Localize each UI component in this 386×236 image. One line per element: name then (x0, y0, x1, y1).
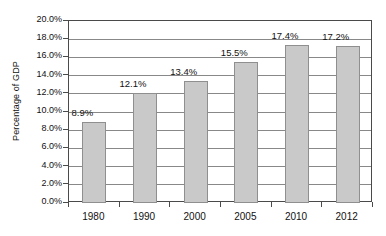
y-axis-tick-label: 18.0% (2, 33, 62, 42)
x-axis-tick-mark (321, 202, 322, 207)
bar-value-label: 17.2% (314, 32, 358, 42)
bar (133, 93, 157, 203)
y-axis-tick-mark (63, 38, 68, 39)
x-axis-tick-label: 1980 (68, 211, 118, 222)
y-axis-tick-label: 10.0% (2, 106, 62, 115)
gridline (69, 75, 371, 76)
y-axis-tick-label: 20.0% (2, 15, 62, 24)
bar (336, 46, 360, 203)
bar-value-label: 8.9% (60, 108, 104, 118)
y-axis-tick-label: 4.0% (2, 161, 62, 170)
y-axis-tick-mark (63, 92, 68, 93)
x-axis-tick-label: 1990 (119, 211, 169, 222)
gridline (69, 184, 371, 185)
y-axis-tick-mark (63, 56, 68, 57)
bar-value-label: 13.4% (162, 67, 206, 77)
bar-value-label: 17.4% (263, 31, 307, 41)
bar (184, 81, 208, 203)
bar (82, 122, 106, 203)
y-axis-tick-mark (63, 183, 68, 184)
bar-value-label: 12.1% (111, 79, 155, 89)
x-axis-tick-label: 2005 (220, 211, 270, 222)
x-axis-tick-mark (169, 202, 170, 207)
x-axis-tick-mark (68, 202, 69, 207)
x-axis-tick-label: 2000 (170, 211, 220, 222)
x-axis-tick-mark (220, 202, 221, 207)
bar (285, 45, 309, 203)
x-axis-tick-label: 2012 (322, 211, 372, 222)
gridline (69, 130, 371, 131)
y-axis-tick-mark (63, 20, 68, 21)
y-axis-tick-label: 2.0% (2, 179, 62, 188)
y-axis-tick-mark (63, 129, 68, 130)
y-axis-tick-mark (63, 74, 68, 75)
gridline (69, 166, 371, 167)
gridline (69, 112, 371, 113)
gridline (69, 148, 371, 149)
x-axis-tick-mark (372, 202, 373, 207)
y-axis-tick-mark (63, 147, 68, 148)
y-axis-tick-mark (63, 165, 68, 166)
y-axis-tick-label: 14.0% (2, 70, 62, 79)
bar-chart: Percentage of GDP 0.0%2.0%4.0%6.0%8.0%10… (0, 0, 386, 236)
y-axis-tick-label: 6.0% (2, 142, 62, 151)
x-axis-tick-mark (119, 202, 120, 207)
x-axis-tick-label: 2010 (271, 211, 321, 222)
y-axis-tick-label: 16.0% (2, 51, 62, 60)
x-axis-tick-mark (271, 202, 272, 207)
y-axis-tick-label: 12.0% (2, 88, 62, 97)
bar (234, 62, 258, 203)
y-axis-tick-label: 8.0% (2, 124, 62, 133)
bar-value-label: 15.5% (212, 48, 256, 58)
y-axis-tick-label: 0.0% (2, 197, 62, 206)
gridline (69, 93, 371, 94)
